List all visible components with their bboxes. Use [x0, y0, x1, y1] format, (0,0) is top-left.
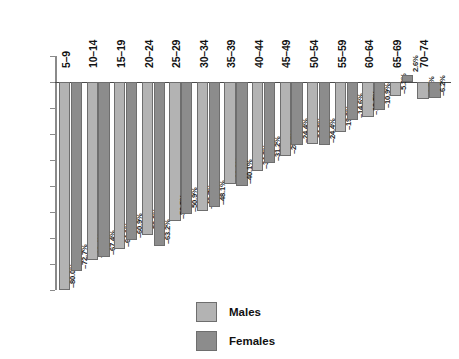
legend-swatch-females — [196, 331, 217, 351]
bar-value-label: –6.2% — [438, 76, 447, 97]
legend-swatch-males — [196, 302, 217, 322]
category-label: 20–24 — [143, 40, 155, 68]
bar-value-label: 2.6% — [411, 56, 420, 73]
bar-females — [71, 82, 82, 271]
category-label: 30–34 — [198, 40, 210, 68]
y-tick-mark — [50, 238, 55, 239]
bar-males — [59, 82, 70, 290]
category-label: 55–59 — [336, 40, 348, 68]
chart-legend: Males Females — [196, 302, 275, 359]
y-axis-line — [55, 56, 57, 290]
bar-chart: 10%0%–10%–20%–30%–40%–50%–60%–70%–80% 5–… — [0, 0, 459, 359]
bar-females — [402, 75, 413, 82]
category-label: 35–39 — [225, 40, 237, 68]
legend-item-males: Males — [196, 302, 275, 322]
category-label: 50–54 — [308, 40, 320, 68]
y-tick-mark — [50, 160, 55, 161]
y-tick-mark — [50, 82, 55, 83]
category-label: 25–29 — [170, 40, 182, 68]
category-label: 45–49 — [280, 40, 292, 68]
category-label: 40–44 — [253, 40, 265, 68]
bar-value-label: –48.1% — [218, 180, 227, 205]
category-label: 10–14 — [87, 40, 99, 68]
y-tick-mark — [50, 212, 55, 213]
y-tick-mark — [50, 264, 55, 265]
legend-label-males: Males — [229, 306, 261, 318]
plot-area: 10%0%–10%–20%–30%–40%–50%–60%–70%–80% 5–… — [55, 56, 451, 290]
bar-value-label: –63.2% — [163, 220, 172, 245]
category-label: 70–74 — [418, 40, 430, 68]
legend-label-females: Females — [229, 335, 275, 347]
category-label: 5–9 — [60, 51, 72, 68]
y-tick-mark — [50, 186, 55, 187]
y-tick-mark — [50, 108, 55, 109]
y-tick-mark — [50, 290, 55, 291]
category-label: 60–64 — [363, 40, 375, 68]
category-label: 65–69 — [391, 40, 403, 68]
y-tick-mark — [50, 134, 55, 135]
category-label: 15–19 — [115, 40, 127, 68]
y-tick-mark — [50, 56, 55, 57]
legend-item-females: Females — [196, 331, 275, 351]
